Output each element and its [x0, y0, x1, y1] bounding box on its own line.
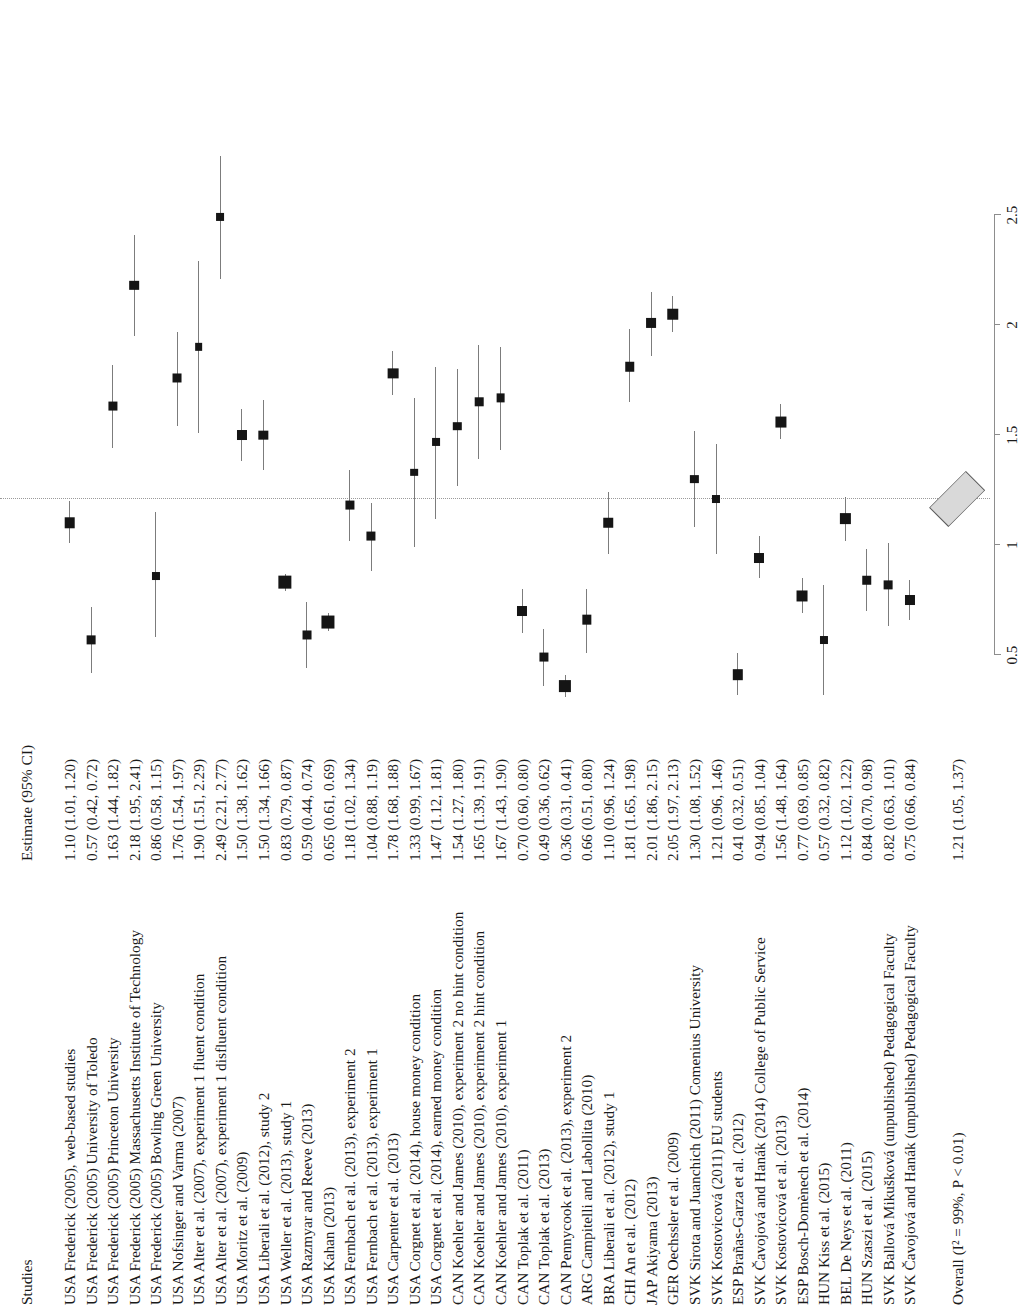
effect-marker	[732, 670, 742, 680]
effect-marker	[475, 398, 484, 407]
study-label: SVK Kostovicová et al. (2013)	[773, 1115, 788, 1305]
study-label: USA Frederick (2005) Bowling Green Unive…	[148, 1002, 163, 1305]
effect-marker	[152, 572, 160, 580]
effect-marker	[604, 518, 614, 528]
axis-tick	[994, 324, 1000, 325]
study-label: ESP Bosch-Domènech et al. (2014)	[795, 1088, 810, 1305]
effect-marker	[797, 590, 808, 601]
study-label: SVK Ballová Mikušková (unpublished) Peda…	[881, 933, 896, 1305]
study-label: USA Kahan (2013)	[321, 1187, 336, 1305]
effect-marker	[754, 553, 764, 563]
study-label: CAN Toplak et al. (2011)	[515, 1149, 530, 1305]
effect-marker	[820, 636, 828, 644]
study-label: USA Moritz et al. (2009)	[234, 1152, 249, 1305]
estimate-value: 0.94 (0.85, 1.04)	[752, 759, 767, 861]
effect-marker	[259, 430, 268, 439]
axis-tick	[994, 214, 1000, 215]
estimate-value: 0.75 (0.66, 0.84)	[902, 759, 917, 861]
effect-marker	[625, 362, 635, 372]
estimate-value: 0.59 (0.44, 0.74)	[299, 759, 314, 861]
effect-marker	[237, 430, 247, 440]
estimate-value: 1.76 (1.54, 1.97)	[170, 759, 185, 861]
study-label: USA Liberali et al. (2012), study 2	[256, 1093, 271, 1305]
effect-marker	[496, 393, 505, 402]
study-label: CAN Toplak et al. (2013)	[536, 1149, 551, 1305]
effect-marker	[453, 422, 461, 430]
study-label: USA Razmyar and Reeve (2013)	[299, 1104, 314, 1305]
axis-tick	[994, 654, 1000, 655]
study-label: USA Frederick (2005) Massachusetts Insti…	[127, 930, 142, 1305]
axis-tick-label: 2.5	[1004, 206, 1021, 225]
study-label: USA Frederick (2005) University of Toled…	[84, 1037, 99, 1305]
estimate-value: 1.30 (1.08, 1.52)	[687, 759, 702, 861]
effect-marker	[517, 606, 527, 616]
effect-marker	[582, 615, 591, 624]
study-label: USA Weller et al. (2013), study 1	[278, 1101, 293, 1305]
study-label: HUN Szaszi et al. (2015)	[859, 1151, 874, 1305]
effect-marker	[840, 514, 850, 524]
study-label: SVK Sirota and Juanchich (2011) Comenius…	[687, 965, 702, 1305]
study-label: USA Corgnet et al. (2014), house money c…	[407, 994, 422, 1305]
effect-marker	[195, 343, 203, 351]
estimate-value: 0.57 (0.42, 0.72)	[84, 759, 99, 861]
effect-marker	[905, 595, 915, 605]
study-label: SVK Kostovicová (2011) EU students	[709, 1071, 724, 1305]
study-label: CAN Koehler and James (2010), experiment…	[471, 931, 486, 1305]
forest-plot-canvas: 0.511.522.5	[0, 13, 1035, 673]
study-label: HUN Kiss et al. (2015)	[816, 1163, 831, 1305]
study-label: CHI An et al. (2012)	[622, 1179, 637, 1305]
study-label: BRA Liberali et al. (2012), study 1	[601, 1092, 616, 1305]
estimate-value: 2.05 (1.97, 2.13)	[665, 759, 680, 861]
column-header-studies: Studies	[18, 1259, 36, 1305]
estimate-value: 2.49 (2.21, 2.77)	[213, 759, 228, 861]
estimate-value: 1.65 (1.39, 1.91)	[471, 759, 486, 861]
effect-marker	[345, 501, 354, 510]
column-header-estimate: Estimate (95% CI)	[18, 745, 36, 861]
estimate-value: 0.77 (0.69, 0.85)	[795, 759, 810, 861]
estimate-value: 1.50 (1.38, 1.62)	[234, 759, 249, 861]
estimate-value: 1.10 (1.01, 1.20)	[62, 759, 77, 861]
estimate-value: 0.82 (0.63, 1.01)	[881, 759, 896, 861]
study-label: BEL De Neys et al. (2011)	[838, 1142, 853, 1305]
effect-marker	[667, 308, 678, 319]
estimate-value: 0.83 (0.79, 0.87)	[278, 759, 293, 861]
study-label: ESP Brañas-Garza et al. (2012)	[730, 1113, 745, 1305]
estimate-value: 1.04 (0.88, 1.19)	[364, 759, 379, 861]
effect-marker	[690, 475, 698, 483]
estimate-value: 1.54 (1.27, 1.80)	[450, 759, 465, 861]
study-label: CAN Pennycook et al. (2013), experiment …	[558, 1035, 573, 1305]
effect-marker	[367, 532, 376, 541]
axis-tick	[994, 434, 1000, 435]
effect-marker	[775, 416, 786, 427]
estimate-value: 1.33 (0.99, 1.67)	[407, 759, 422, 861]
effect-marker	[302, 631, 311, 640]
study-label: ARG Campitelli and Labollita (2010)	[579, 1075, 594, 1305]
overall-label: Overall (I² = 99%, P < 0.01)	[950, 1132, 965, 1305]
estimate-value: 1.63 (1.44, 1.82)	[105, 759, 120, 861]
effect-marker	[410, 469, 418, 477]
estimate-value: 1.47 (1.12, 1.81)	[428, 759, 443, 861]
estimate-value: 1.12 (1.02, 1.22)	[838, 759, 853, 861]
study-label: SVK Čavojová and Hanák (unpublished) Ped…	[902, 925, 917, 1305]
estimate-value: 0.86 (0.58, 1.15)	[148, 759, 163, 861]
axis-tick-label: 2	[1004, 321, 1021, 329]
effect-marker	[278, 576, 291, 589]
effect-marker	[129, 281, 139, 291]
study-label: JAP Akiyama (2013)	[644, 1176, 659, 1305]
estimate-value: 1.90 (1.51, 2.29)	[191, 759, 206, 861]
study-label: USA Fernbach et al. (2013), experiment 2	[342, 1048, 357, 1305]
estimate-value: 1.78 (1.68, 1.88)	[385, 759, 400, 861]
study-label: SVK Čavojová and Hanák (2014) College of…	[752, 937, 767, 1305]
effect-marker	[559, 680, 571, 692]
estimate-value: 0.84 (0.70, 0.98)	[859, 759, 874, 861]
study-label: USA Frederick (2005), web-based studies	[62, 1049, 77, 1305]
overall-estimate-value: 1.21 (1.05, 1.37)	[950, 759, 965, 861]
estimate-value: 0.70 (0.60, 0.80)	[515, 759, 530, 861]
study-label: USA Frederick (2005) Princeton Universit…	[105, 1037, 120, 1305]
estimate-value: 1.10 (0.96, 1.24)	[601, 759, 616, 861]
effect-marker	[712, 495, 720, 503]
reference-line	[0, 498, 990, 499]
axis-line	[994, 215, 995, 655]
effect-marker	[387, 368, 398, 379]
estimate-value: 1.21 (0.96, 1.46)	[709, 759, 724, 861]
